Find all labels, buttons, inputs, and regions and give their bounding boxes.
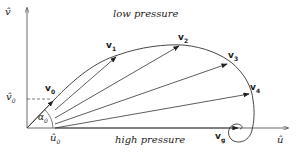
vector-v4 <box>55 94 249 128</box>
u0-hat-label: û0 <box>50 132 60 145</box>
vector-v1 <box>55 57 116 110</box>
v4-label: v4 <box>250 82 260 94</box>
vg-label: vg <box>215 131 225 143</box>
vector-v2 <box>55 46 179 118</box>
diagram-drawing <box>0 0 301 154</box>
y-axis-label: v̂ <box>5 6 11 17</box>
low-pressure-label: low pressure <box>113 8 178 19</box>
x-axis-label: û <box>277 134 283 145</box>
high-pressure-label: high pressure <box>115 134 185 145</box>
v1-label: v1 <box>106 40 116 52</box>
vector-v3 <box>55 64 227 124</box>
diagram: low pressure high pressure v̂ û v̂0 û0 α… <box>0 0 301 154</box>
v3-label: v3 <box>228 50 238 62</box>
v2-label: v2 <box>178 32 188 44</box>
trajectory-curve <box>27 45 254 142</box>
alpha-label: α0 <box>38 112 48 124</box>
v0-label: v0 <box>45 83 55 95</box>
v0-hat-label: v̂0 <box>6 91 15 104</box>
